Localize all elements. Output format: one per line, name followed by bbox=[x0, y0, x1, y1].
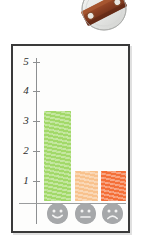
y-tick-label-2: 2 bbox=[19, 145, 33, 156]
y-tick-3 bbox=[33, 121, 40, 122]
y-tick-label-5: 5 bbox=[19, 56, 33, 67]
y-axis-line bbox=[36, 58, 37, 224]
y-tick-1 bbox=[33, 181, 40, 182]
y-tick-label-4: 4 bbox=[19, 85, 33, 96]
bar-neutral bbox=[75, 171, 98, 201]
pencil-sharpener-object bbox=[76, 0, 132, 34]
pencil-sharpener-icon bbox=[76, 0, 132, 34]
y-tick-2 bbox=[33, 151, 40, 152]
sad-face-icon bbox=[102, 203, 123, 224]
bar-chart-card: 5 4 3 2 1 bbox=[11, 44, 130, 233]
bar-sad bbox=[101, 171, 126, 201]
y-tick-label-1: 1 bbox=[19, 175, 33, 186]
y-tick-5 bbox=[33, 62, 40, 63]
y-tick-label-3: 3 bbox=[19, 115, 33, 126]
happy-face-icon bbox=[47, 203, 68, 224]
neutral-face-icon bbox=[75, 203, 96, 224]
bar-happy-fill bbox=[44, 111, 71, 201]
y-tick-4 bbox=[33, 91, 40, 92]
bar-neutral-fill bbox=[75, 171, 98, 201]
bar-sad-fill bbox=[101, 171, 126, 201]
bar-happy bbox=[44, 111, 71, 201]
chart-plot-area: 5 4 3 2 1 bbox=[13, 46, 128, 231]
